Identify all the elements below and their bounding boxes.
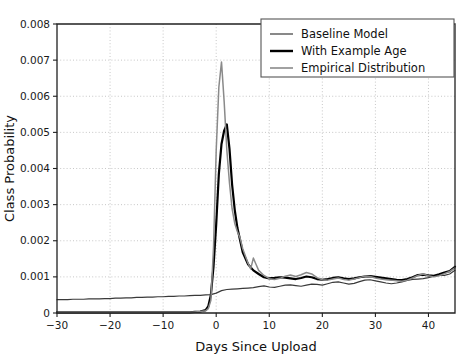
x-tick-label: 30	[369, 319, 382, 331]
y-tick-label: 0	[43, 307, 50, 319]
x-tick-label: −10	[152, 319, 174, 331]
y-tick-label: 0.006	[20, 90, 50, 102]
x-tick-label: 20	[316, 319, 329, 331]
x-axis-title: Days Since Upload	[195, 339, 317, 354]
legend-layer: Baseline ModelWith Example AgeEmpirical …	[261, 19, 454, 77]
y-tick-label: 0.007	[20, 54, 50, 66]
legend-label-1: With Example Age	[301, 44, 407, 58]
series-layer	[57, 62, 455, 312]
x-tick-label: 40	[422, 319, 435, 331]
y-axis-title: Class Probability	[2, 115, 17, 222]
series-line-0	[57, 270, 455, 299]
y-tick-label: 0.004	[20, 162, 50, 174]
series-line-1	[57, 124, 455, 312]
chart-canvas: −30−20−1001020304000.0010.0020.0030.0040…	[0, 0, 465, 359]
y-tick-label: 0.005	[20, 126, 50, 138]
legend-label-2: Empirical Distribution	[301, 61, 425, 75]
y-tick-label: 0.008	[20, 18, 50, 30]
x-tick-label: 0	[213, 319, 220, 331]
x-tick-label: 10	[263, 319, 276, 331]
chart-figure: −30−20−1001020304000.0010.0020.0030.0040…	[0, 0, 465, 359]
x-tick-label: −30	[46, 319, 68, 331]
y-tick-label: 0.001	[20, 270, 50, 282]
series-line-2	[57, 62, 455, 312]
legend-label-0: Baseline Model	[301, 27, 388, 41]
y-tick-label: 0.002	[20, 234, 50, 246]
y-tick-label: 0.003	[20, 198, 50, 210]
x-tick-label: −20	[99, 319, 121, 331]
